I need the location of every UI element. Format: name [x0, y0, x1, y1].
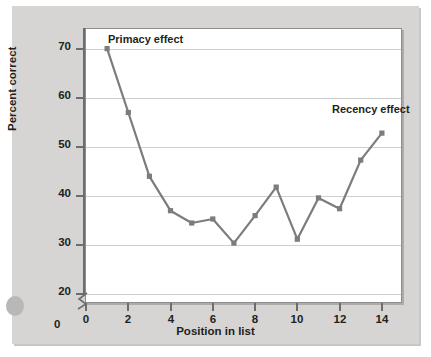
y-tick-70: 70 [76, 48, 85, 50]
x-tick-0 [85, 303, 87, 311]
y-tick-60: 60 [76, 97, 85, 99]
x-tick-12 [339, 303, 341, 311]
x-tick-label-14: 14 [376, 313, 389, 325]
y-axis-spine [83, 28, 85, 294]
x-axis-title: Position in list [0, 325, 431, 337]
data-point-10 [295, 237, 300, 242]
data-point-8 [253, 213, 258, 218]
data-point-4 [168, 208, 173, 213]
chart-figure: 203040506070 0 Percent correct 024681012… [0, 0, 431, 357]
data-point-2 [126, 110, 131, 115]
figure-card: 203040506070 0 Percent correct 024681012… [12, 6, 419, 344]
x-tick-14 [381, 303, 383, 311]
data-point-7 [231, 241, 236, 246]
data-point-3 [147, 174, 152, 179]
data-point-6 [210, 216, 215, 221]
y-tick-50: 50 [76, 146, 85, 148]
x-tick-2 [127, 303, 129, 311]
x-tick-label-10: 10 [291, 313, 304, 325]
series-line [107, 49, 382, 244]
y-tick-label-40: 40 [58, 187, 71, 199]
y-tick-30: 30 [76, 244, 85, 246]
data-point-13 [358, 158, 363, 163]
annotation-primacy-effect: Primacy effect [108, 33, 183, 45]
x-tick-4 [170, 303, 172, 311]
data-point-1 [105, 46, 110, 51]
y-tick-40: 40 [76, 195, 85, 197]
data-point-9 [274, 185, 279, 190]
plot-area [85, 28, 402, 303]
x-tick-label-8: 8 [252, 313, 258, 325]
y-tick-label-20: 20 [58, 285, 71, 297]
data-series-line [86, 29, 403, 304]
y-tick-label-30: 30 [58, 236, 71, 248]
x-tick-label-0: 0 [83, 313, 89, 325]
data-point-5 [189, 220, 194, 225]
y-axis-title: Percent correct [6, 47, 18, 131]
page-edge-artifact [6, 296, 24, 316]
y-tick-label-60: 60 [58, 89, 71, 101]
y-tick-label-50: 50 [58, 138, 71, 150]
data-point-11 [316, 195, 321, 200]
x-tick-label-6: 6 [210, 313, 216, 325]
x-tick-6 [212, 303, 214, 311]
x-tick-label-4: 4 [168, 313, 174, 325]
x-tick-label-2: 2 [125, 313, 131, 325]
x-tick-8 [254, 303, 256, 311]
data-point-12 [337, 206, 342, 211]
x-tick-10 [296, 303, 298, 311]
y-tick-label-70: 70 [58, 40, 71, 52]
data-point-14 [379, 131, 384, 136]
x-tick-label-12: 12 [334, 313, 347, 325]
annotation-recency-effect: Recency effect [332, 103, 410, 115]
